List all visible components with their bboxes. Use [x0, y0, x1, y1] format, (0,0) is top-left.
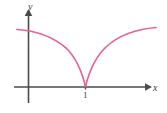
curve-left-branch: [17, 30, 86, 87]
curve-right-branch: [86, 28, 157, 87]
x-axis-arrowhead: [145, 83, 152, 91]
x-tick-label-1: 1: [83, 91, 88, 100]
y-axis-label: y: [28, 2, 32, 12]
x-axis-label: x: [153, 83, 157, 93]
graph-figure: y x 1: [0, 0, 167, 113]
